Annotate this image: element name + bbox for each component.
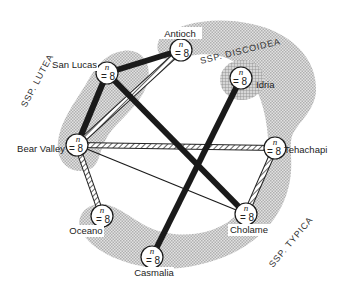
edge-bear-valley-cholame [77, 145, 246, 214]
node-bear-valley: n = 8 Bear Valley [17, 134, 88, 156]
node-san-lucas: n = 8 San Lucas [52, 59, 118, 84]
node-label: Antioch [164, 28, 196, 39]
node-label: San Lucas [52, 59, 97, 70]
node-label: Bear Valley [17, 143, 65, 154]
node-count: = 8 [101, 71, 116, 82]
node-count: = 8 [175, 48, 190, 59]
node-count: = 8 [69, 143, 84, 154]
node-label: Tehachapi [284, 144, 327, 155]
node-tehachapi: n = 8 Tehachapi [264, 137, 327, 159]
node-count: = 8 [240, 212, 255, 223]
node-label: Oceano [69, 225, 102, 236]
node-count: = 8 [96, 214, 111, 225]
node-count: = 8 [233, 76, 248, 87]
node-count: = 8 [146, 255, 161, 266]
region-label-typica: SSP. TYPICA [267, 215, 315, 270]
population-network-diagram: n = 8 Antioch n = 8 San Lucas n = 8 Idri… [0, 0, 343, 291]
region-label-lutea: SSP. LUTEA [19, 52, 55, 109]
node-label: Idria [256, 79, 275, 90]
node-label: Cholame [230, 224, 268, 235]
node-count: = 8 [267, 146, 282, 157]
node-label: Casmalia [134, 267, 174, 278]
